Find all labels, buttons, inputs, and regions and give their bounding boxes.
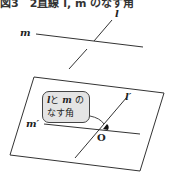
callout-pointer bbox=[90, 116, 104, 124]
callout-suffix: の bbox=[75, 95, 84, 105]
line-m-prime bbox=[44, 124, 140, 134]
line-m bbox=[36, 34, 143, 47]
label-l: l bbox=[115, 9, 119, 19]
callout-connector: と bbox=[50, 95, 59, 105]
label-m: m bbox=[20, 28, 31, 38]
callout-var-m: m bbox=[62, 95, 72, 105]
label-m-prime: m′ bbox=[26, 119, 39, 129]
callout-line-1: lと m の bbox=[47, 94, 85, 107]
angle-callout: lと m の なす角 bbox=[42, 91, 90, 123]
label-l-prime: l′ bbox=[125, 92, 131, 102]
line-l-lower bbox=[69, 49, 87, 69]
callout-line-2: なす角 bbox=[47, 107, 85, 120]
line-l-upper bbox=[94, 20, 112, 41]
label-origin: O bbox=[97, 132, 106, 143]
